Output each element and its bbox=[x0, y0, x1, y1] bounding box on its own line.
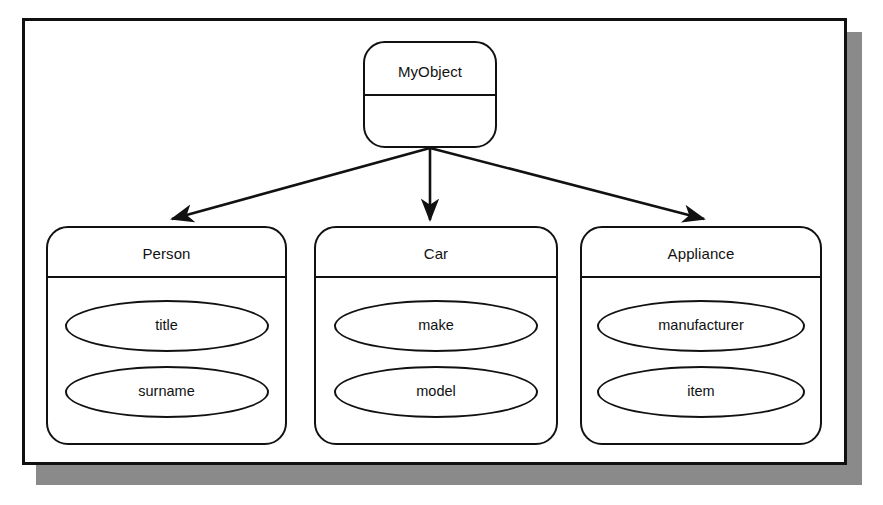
attribute-oval[interactable]: model bbox=[334, 366, 538, 418]
attribute-list-person: title surname bbox=[48, 284, 285, 433]
class-name-myobject: MyObject bbox=[365, 64, 495, 79]
class-name-appliance: Appliance bbox=[582, 246, 820, 261]
class-name-car: Car bbox=[316, 246, 556, 261]
attribute-label: item bbox=[687, 384, 714, 399]
class-node-car[interactable]: Car make model bbox=[314, 226, 558, 445]
class-divider bbox=[582, 276, 820, 278]
attribute-label: manufacturer bbox=[658, 318, 743, 333]
class-divider bbox=[365, 94, 495, 96]
diagram-canvas: MyObject Person title surname Car make m… bbox=[0, 0, 883, 505]
class-node-person[interactable]: Person title surname bbox=[46, 226, 287, 445]
attribute-oval[interactable]: make bbox=[334, 300, 538, 352]
class-node-appliance[interactable]: Appliance manufacturer item bbox=[580, 226, 822, 445]
attribute-label: surname bbox=[138, 384, 194, 399]
class-node-myobject[interactable]: MyObject bbox=[363, 41, 497, 148]
class-divider bbox=[48, 276, 285, 278]
attribute-oval[interactable]: surname bbox=[65, 366, 269, 418]
class-name-person: Person bbox=[48, 246, 285, 261]
attribute-list-car: make model bbox=[316, 284, 556, 433]
attribute-oval[interactable]: title bbox=[65, 300, 269, 352]
attribute-label: model bbox=[416, 384, 456, 399]
attribute-label: title bbox=[155, 318, 178, 333]
attribute-oval[interactable]: manufacturer bbox=[597, 300, 805, 352]
attribute-oval[interactable]: item bbox=[597, 366, 805, 418]
class-divider bbox=[316, 276, 556, 278]
attribute-label: make bbox=[418, 318, 453, 333]
attribute-list-appliance: manufacturer item bbox=[582, 284, 820, 433]
